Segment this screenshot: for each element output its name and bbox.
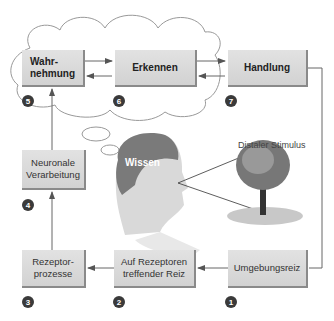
thought-bubble <box>82 127 110 141</box>
wissen-label: Wissen <box>125 157 160 168</box>
badge-3: 3 <box>22 296 34 308</box>
box-umgebungsreiz: Umgebungsreiz <box>228 250 308 288</box>
badge-1: 1 <box>225 296 237 308</box>
tree-illustration <box>227 140 303 225</box>
badge-5: 5 <box>22 95 34 107</box>
badge-6: 6 <box>113 95 125 107</box>
badge-2: 2 <box>113 296 125 308</box>
thought-bubble <box>101 145 119 155</box>
badge-7: 7 <box>225 95 237 107</box>
box-erkennen: Erkennen <box>115 50 197 87</box>
box-wahrnehmung: Wahr- nehmung <box>22 50 85 87</box>
badge-4: 4 <box>22 199 34 211</box>
box-rezeptorprozesse: Rezeptor- prozesse <box>22 250 86 288</box>
box-handlung: Handlung <box>228 50 308 87</box>
sight-line <box>178 183 262 212</box>
box-auf-rezeptoren: Auf Rezeptoren treffender Reiz <box>114 250 196 288</box>
box-neuronale-verarbeitung: Neuronale Verarbeitung <box>22 150 86 190</box>
feedback-line <box>307 68 322 268</box>
head-illustration <box>116 133 200 258</box>
distal-stimulus-label: Distaler Stimulus <box>238 140 306 150</box>
